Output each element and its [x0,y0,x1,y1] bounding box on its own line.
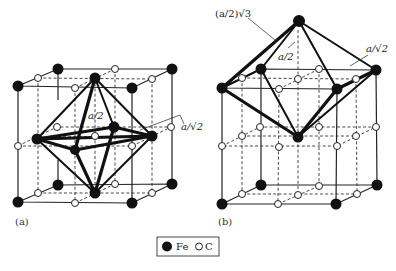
panel-label-b: (b) [218,216,232,227]
label-half-a-root3: (a/2)√3 [215,8,251,19]
leader-b-half [288,42,295,48]
legend-fe-label: Fe [176,241,188,252]
leader-half-a-root3 [248,18,275,40]
label-b-a-over-root2: a/√2 [366,43,388,54]
panel-a: a/2 a/√2 (a) [13,64,204,228]
legend: Fe C [157,237,219,256]
legend-c-label: C [205,241,213,252]
crystal-structure-figure: a/2 a/√2 (a) [0,0,396,271]
label-b-half: a/2 [278,51,294,62]
panel-label-a: (a) [15,216,29,227]
panel-b: (a/2)√3 a/2 a/√2 (b) [215,8,388,227]
fe-legend-icon [162,242,172,252]
fe-atoms-b [217,15,383,210]
c-legend-icon [196,243,203,250]
label-a-half: a/2 [88,110,104,121]
label-a-over-root2: a/√2 [181,121,203,132]
